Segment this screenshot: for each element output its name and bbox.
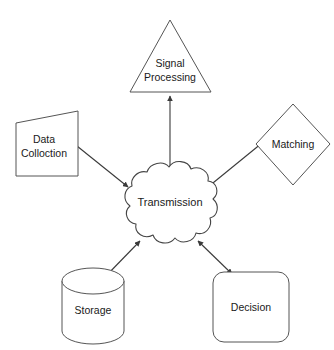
node-matching[interactable]: Matching — [256, 104, 330, 185]
node-decision[interactable]: Decision — [213, 272, 289, 342]
node-storage-label: Storage — [75, 304, 112, 316]
node-matching-label: Matching — [272, 138, 315, 150]
node-data-colloction-label-line2: Colloction — [21, 147, 67, 159]
link-transmission-matching[interactable] — [208, 143, 262, 187]
diagram-svg: Signal Processing Data Colloction Matchi… — [0, 0, 334, 350]
link-transmission-decision[interactable] — [198, 241, 232, 274]
node-data-colloction[interactable]: Data Colloction — [16, 111, 78, 176]
diagram-canvas: Signal Processing Data Colloction Matchi… — [0, 0, 334, 350]
node-decision-label: Decision — [231, 301, 271, 313]
node-transmission-label: Transmission — [138, 196, 203, 208]
link-transmission-data-colloction[interactable] — [72, 142, 128, 187]
node-signal-processing-label-line1: Signal — [155, 57, 184, 69]
node-storage[interactable]: Storage — [62, 268, 124, 344]
node-transmission[interactable]: Transmission — [125, 162, 217, 243]
node-signal-processing[interactable]: Signal Processing — [130, 20, 211, 92]
node-data-colloction-label-line1: Data — [33, 133, 55, 145]
node-signal-processing-label-line2: Processing — [144, 71, 196, 83]
cylinder-top-ellipse — [62, 268, 124, 294]
